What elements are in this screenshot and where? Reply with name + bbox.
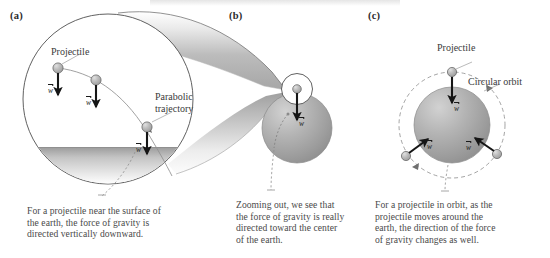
caption-a: For a projectile near the surface of the… bbox=[27, 205, 227, 240]
annotation-projectile-a: Projectile bbox=[51, 46, 89, 58]
panel-label-a: (a) bbox=[10, 10, 23, 21]
caption-b-line-3: directed toward the center bbox=[236, 222, 376, 234]
weight-label-c-top: w bbox=[454, 102, 459, 113]
annotation-circular-orbit: Circular orbit bbox=[468, 76, 522, 88]
caption-a-line-1: For a projectile near the surface of bbox=[27, 205, 227, 217]
caption-a-line-3: directed vertically downward. bbox=[27, 228, 227, 240]
caption-c: For a projectile in orbit, as the projec… bbox=[375, 199, 540, 245]
weight-label-a1: w bbox=[48, 84, 53, 95]
annotation-projectile-c: Projectile bbox=[437, 42, 475, 54]
caption-c-line-4: of gravity changes as well. bbox=[375, 234, 540, 246]
annotation-parabolic-trajectory-line1: Parabolic bbox=[155, 91, 193, 103]
caption-b-line-4: of the earth. bbox=[236, 234, 376, 246]
annotation-parabolic-trajectory-line2: trajectory bbox=[155, 103, 193, 115]
panel-label-c: (c) bbox=[368, 10, 380, 21]
caption-c-line-3: earth, the direction of the force bbox=[375, 222, 540, 234]
caption-b-line-1: Zooming out, we see that bbox=[236, 199, 376, 211]
caption-b-line-2: the force of gravity is really bbox=[236, 211, 376, 223]
caption-b: Zooming out, we see that the force of gr… bbox=[236, 199, 376, 245]
caption-c-line-1: For a projectile in orbit, as the bbox=[375, 199, 540, 211]
caption-c-line-2: projectile moves around the bbox=[375, 211, 540, 223]
weight-label-c-right: w bbox=[466, 141, 471, 152]
physics-gravity-figure: (a) (b) (c) Projectile Parabolic traject… bbox=[0, 0, 550, 258]
panel-label-b: (b) bbox=[229, 10, 242, 21]
panel-b-caption-leader bbox=[267, 150, 275, 190]
weight-label-b1: w bbox=[299, 117, 304, 128]
caption-a-line-2: the earth, the force of gravity is bbox=[27, 217, 227, 229]
weight-label-a3: w bbox=[136, 143, 141, 154]
weight-label-a2: w bbox=[86, 96, 91, 107]
weight-label-c-left: w bbox=[427, 140, 432, 151]
